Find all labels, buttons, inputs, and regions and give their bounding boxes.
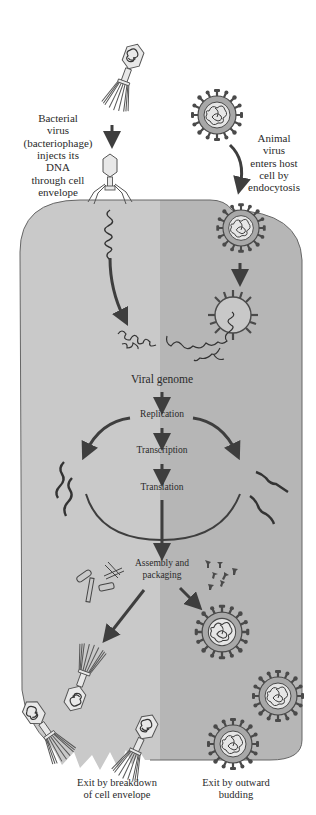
step-replication: Replication bbox=[112, 409, 212, 419]
enveloped-virus-icon bbox=[207, 718, 259, 770]
label-exit-bacterial: Exit by breakdown of cell envelope bbox=[62, 777, 172, 801]
step-translation: Translation bbox=[112, 482, 212, 492]
enveloped-virus-icon bbox=[208, 290, 258, 340]
bacteriophage-icon bbox=[100, 40, 150, 115]
enveloped-virus-icon bbox=[252, 670, 304, 722]
step-viral-genome: Viral genome bbox=[112, 373, 212, 385]
label-bacterial-entry: Bacterial virus (bacteriophage) injects … bbox=[22, 112, 94, 198]
label-animal-entry: Animal virus enters host cell by endocyt… bbox=[242, 132, 306, 194]
enveloped-virus-icon bbox=[191, 89, 243, 141]
step-packaging: packaging bbox=[112, 570, 212, 580]
label-exit-animal: Exit by outward budding bbox=[186, 777, 286, 801]
step-assembly: Assembly and bbox=[112, 558, 212, 568]
step-transcription: Transcription bbox=[112, 445, 212, 455]
enveloped-virus-icon bbox=[195, 605, 250, 660]
enveloped-virus-icon bbox=[216, 203, 265, 252]
bacteriophage-icon bbox=[88, 154, 132, 204]
